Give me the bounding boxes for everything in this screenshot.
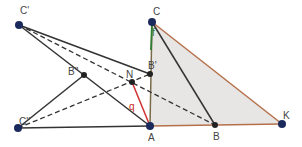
label-C2: C''	[19, 116, 30, 127]
label-f: f	[152, 27, 155, 38]
label-N: N	[126, 69, 133, 80]
geometry-diagram: C' B'' C'' N B' A C B K f q	[0, 0, 302, 147]
segment-C1B1	[19, 25, 150, 74]
label-A: A	[148, 132, 155, 143]
label-K: K	[283, 110, 290, 121]
label-B: B	[213, 131, 220, 142]
point-B[interactable]	[212, 122, 218, 128]
point-K[interactable]	[278, 120, 286, 128]
segment-C2A	[18, 126, 150, 128]
point-B1[interactable]	[147, 71, 153, 77]
triangle-ACK	[150, 22, 282, 126]
point-C1[interactable]	[15, 21, 23, 29]
label-B1: B'	[148, 60, 157, 71]
label-q: q	[129, 101, 135, 112]
diagram-canvas: C' B'' C'' N B' A C B K f q	[0, 0, 302, 147]
label-C1: C'	[20, 5, 29, 16]
point-C[interactable]	[148, 18, 156, 26]
point-B2[interactable]	[81, 72, 87, 78]
label-C: C	[153, 6, 160, 17]
label-B2: B''	[68, 66, 79, 77]
point-A[interactable]	[146, 122, 154, 130]
